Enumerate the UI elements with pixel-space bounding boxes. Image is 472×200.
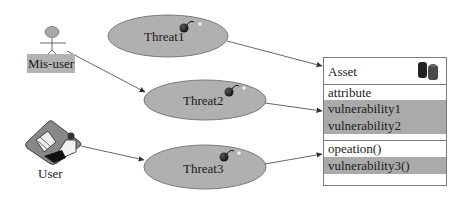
asset-class-box[interactable]: Asset attribute vulnerability1 vulnerabi… bbox=[323, 57, 447, 186]
database-cylinders-icon bbox=[417, 61, 441, 81]
asset-name: Asset bbox=[328, 64, 357, 80]
operation-vulnerability3: vulnerability3() bbox=[324, 157, 446, 174]
attribute-header: attribute bbox=[324, 85, 446, 100]
threat3-label: Threat3 bbox=[183, 162, 223, 175]
operation-header: opeation() bbox=[324, 141, 446, 157]
user-label: User bbox=[38, 166, 63, 182]
attribute-vulnerability1: vulnerability1 bbox=[324, 100, 446, 117]
threat2-label: Threat2 bbox=[183, 94, 223, 107]
misuser-stick-figure-icon bbox=[40, 27, 66, 57]
section-divider bbox=[324, 134, 446, 141]
misuser-label: Mis-user bbox=[27, 54, 75, 73]
attribute-vulnerability2: vulnerability2 bbox=[324, 117, 446, 134]
asset-footer bbox=[324, 174, 446, 180]
user-person-at-computer-icon bbox=[26, 121, 82, 165]
asset-header: Asset bbox=[324, 58, 446, 85]
threat1-label: Threat1 bbox=[144, 30, 184, 43]
